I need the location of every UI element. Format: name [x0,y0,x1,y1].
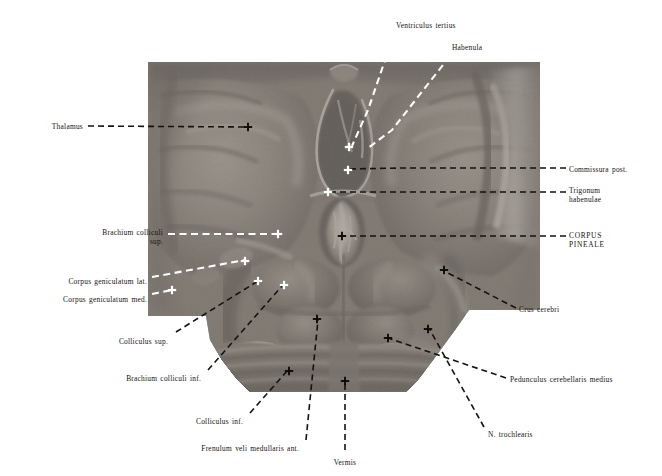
label-line: Pedunculus cerebellaris medius [510,375,613,384]
label-line: habenulae [569,195,601,204]
label-pedunculus-cerebellaris-medius: Pedunculus cerebellaris medius [510,375,613,384]
label-brachium-colliculi-sup: Brachium colliculisup. [0,228,163,246]
anatomical-plate: Ventriculus tertiusHabenulaThalamusCommi… [0,0,662,476]
label-line: sup. [0,237,163,246]
label-commissura-post: Commissura post. [569,165,627,174]
label-brachium-colliculi-inf: Brachium colliculi inf. [0,374,201,383]
label-colliculus-sup: Colliculus sup. [0,337,168,346]
label-corpus-pineale: CORPUSPINEALE [569,231,605,249]
label-corpus-geniculatum-med: Corpus geniculatum med. [0,295,147,304]
label-line: PINEALE [569,240,605,249]
label-line: Vermis [285,458,405,467]
label-trigonum-habenulae: Trigonumhabenulae [569,186,601,204]
label-frenulum-veli: Frenulum veli medullaris ant. [0,444,299,453]
label-line: Trigonum [569,186,601,195]
label-line: Ventriculus tertius [396,21,456,30]
label-line: N. trochlearis [488,430,533,439]
label-corpus-geniculatum-lat: Corpus geniculatum lat. [0,277,147,286]
label-line: Brachium colliculi inf. [0,374,201,383]
label-ventriculus-tertius: Ventriculus tertius [396,21,456,30]
label-n-trochlearis: N. trochlearis [488,430,533,439]
label-line: Commissura post. [569,165,627,174]
label-thalamus: Thalamus [0,122,83,131]
label-line: Thalamus [0,122,83,131]
label-line: Brachium colliculi [0,228,163,237]
label-habenula: Habenula [452,43,482,52]
label-line: Habenula [452,43,482,52]
label-line: Colliculus sup. [0,337,168,346]
label-vermis: Vermis [285,458,405,467]
label-line: CORPUS [569,231,605,240]
label-line: Frenulum veli medullaris ant. [0,444,299,453]
label-crus-cerebri: Crus cerebri [519,305,559,314]
label-line: Crus cerebri [519,305,559,314]
label-line: Corpus geniculatum med. [0,295,147,304]
label-line: Colliculus inf. [0,417,243,426]
label-line: Corpus geniculatum lat. [0,277,147,286]
label-colliculus-inf: Colliculus inf. [0,417,243,426]
